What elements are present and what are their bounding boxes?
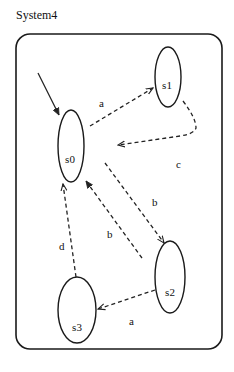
state-s0: s0 bbox=[58, 110, 84, 182]
state-diagram: s0 s1 s2 s3 a c b b a d bbox=[0, 0, 234, 372]
state-s2: s2 bbox=[155, 241, 185, 313]
node-s3-ellipse bbox=[58, 277, 96, 343]
edge-label-s0-s2: b bbox=[152, 196, 158, 208]
edge-label-s3-s0: d bbox=[59, 240, 65, 252]
edge-label-s0-s1: a bbox=[99, 97, 104, 109]
edge-s1-s0-c bbox=[118, 101, 196, 145]
node-s0-ellipse bbox=[58, 110, 84, 182]
node-s1-label: s1 bbox=[162, 79, 172, 91]
edge-label-s2-s0: b bbox=[107, 228, 113, 240]
initial-arrow bbox=[38, 73, 59, 115]
node-s2-ellipse bbox=[155, 241, 185, 313]
edge-s2-s3-a bbox=[98, 290, 155, 309]
node-s3-label: s3 bbox=[72, 321, 82, 333]
state-s1: s1 bbox=[155, 47, 181, 107]
node-s1-ellipse bbox=[155, 47, 181, 107]
node-s0-label: s0 bbox=[65, 153, 75, 165]
edge-s2-s0-b bbox=[86, 181, 142, 258]
edge-label-s2-s3: a bbox=[129, 315, 134, 327]
edge-label-s1-s0: c bbox=[176, 158, 181, 170]
node-s2-label: s2 bbox=[165, 286, 175, 298]
edge-s3-s0-d bbox=[63, 184, 76, 277]
state-s3: s3 bbox=[58, 277, 96, 343]
